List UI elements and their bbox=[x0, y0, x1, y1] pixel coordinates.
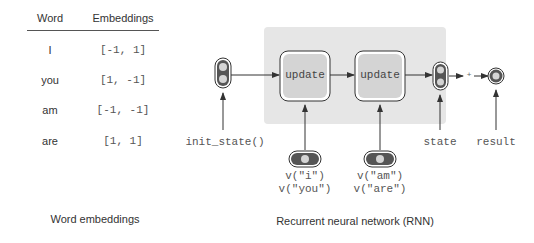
rnn-caption: Recurrent neural network (RNN) bbox=[270, 215, 440, 227]
input-label-1b: v("you") bbox=[270, 183, 340, 195]
input-node-2 bbox=[364, 151, 396, 167]
init-state-label: init_state() bbox=[185, 136, 265, 148]
rnn-diagram bbox=[0, 0, 534, 243]
input-label-2a: v("am") bbox=[345, 170, 415, 182]
input-label-2b: v("are") bbox=[345, 183, 415, 195]
init-state-node bbox=[215, 58, 231, 88]
result-node bbox=[488, 68, 504, 84]
state-label: state bbox=[415, 136, 465, 148]
input-node-1 bbox=[289, 151, 321, 167]
state-node bbox=[433, 62, 448, 90]
plus-label: + bbox=[464, 70, 474, 79]
update-label-1: update bbox=[282, 69, 328, 81]
update-label-2: update bbox=[357, 69, 403, 81]
result-label: result bbox=[471, 136, 521, 148]
input-label-1a: v("i") bbox=[270, 170, 340, 182]
